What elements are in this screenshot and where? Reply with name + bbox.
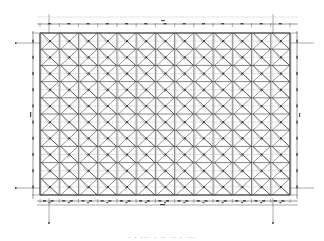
brace-diagonal <box>118 122 127 130</box>
brace-diagonal <box>42 179 51 190</box>
brace-diagonal <box>138 74 147 82</box>
brace-diagonal <box>89 65 98 73</box>
dimension-total-text <box>30 112 31 117</box>
brace-diagonal <box>272 163 281 174</box>
drawing-caption: · · ··· · ·· ·· · ··· <box>0 233 324 241</box>
grid-node <box>49 73 51 75</box>
brace-diagonal <box>118 179 127 190</box>
brace-diagonal <box>108 74 117 82</box>
structural-plan-drawing <box>0 0 324 241</box>
grid-node <box>68 89 70 91</box>
brace-diagonal <box>262 187 271 195</box>
brace-diagonal <box>215 114 224 125</box>
brace-diagonal <box>99 146 108 157</box>
brace-diagonal <box>69 138 78 146</box>
brace-diagonal <box>215 98 224 109</box>
brace-diagonal <box>195 171 204 179</box>
brace-diagonal <box>50 146 59 154</box>
brace-diagonal <box>118 187 127 195</box>
brace-diagonal <box>272 138 281 146</box>
grid-node <box>203 73 205 75</box>
brace-diagonal <box>69 98 78 106</box>
brace-diagonal <box>281 122 290 130</box>
brace-diagonal <box>185 171 194 179</box>
dimension-text <box>32 56 33 59</box>
brace-diagonal <box>242 74 251 82</box>
brace-diagonal <box>157 171 166 179</box>
dimension-text <box>32 104 33 107</box>
brace-diagonal <box>108 33 117 41</box>
brace-diagonal <box>127 33 136 41</box>
brace-diagonal <box>118 82 127 93</box>
brace-diagonal <box>69 90 78 98</box>
brace-diagonal <box>281 90 290 98</box>
brace-diagonal <box>185 98 194 106</box>
brace-diagonal <box>281 98 290 106</box>
brace-diagonal <box>69 179 78 187</box>
brace-diagonal <box>42 155 51 163</box>
grid-node <box>88 170 90 172</box>
brace-diagonal <box>50 187 59 195</box>
brace-diagonal <box>118 57 127 65</box>
brace-diagonal <box>242 146 251 154</box>
brace-diagonal <box>99 179 108 190</box>
brace-diagonal <box>166 171 175 179</box>
brace-diagonal <box>262 171 271 179</box>
brace-diagonal <box>215 163 224 174</box>
brace-diagonal <box>204 179 213 187</box>
brace-diagonal <box>50 114 59 122</box>
brace-diagonal <box>99 130 108 141</box>
brace-diagonal <box>89 41 98 49</box>
brace-diagonal <box>61 106 70 114</box>
brace-diagonal <box>185 33 194 41</box>
brace-diagonal <box>185 65 194 73</box>
brace-diagonal <box>195 138 204 146</box>
brace-diagonal <box>234 33 243 44</box>
dimension-text <box>32 88 33 91</box>
brace-diagonal <box>146 57 155 65</box>
grid-node <box>184 73 186 75</box>
brace-diagonal <box>127 74 136 82</box>
dimension-text <box>62 200 65 201</box>
grid-node <box>107 105 109 107</box>
brace-diagonal <box>215 130 224 141</box>
brace-diagonal <box>108 41 117 49</box>
brace-diagonal <box>157 122 166 130</box>
brace-diagonal <box>262 65 271 73</box>
brace-diagonal <box>253 179 262 190</box>
brace-diagonal <box>50 49 59 57</box>
grid-node <box>88 121 90 123</box>
dimension-text <box>139 200 142 201</box>
brace-diagonal <box>42 122 51 130</box>
brace-diagonal <box>272 122 281 130</box>
brace-diagonal <box>234 41 243 49</box>
brace-diagonal <box>166 138 175 146</box>
brace-diagonal <box>127 187 136 195</box>
brace-diagonal <box>242 179 251 187</box>
brace-diagonal <box>262 138 271 146</box>
grid-node <box>222 154 224 156</box>
dimension-text <box>32 169 33 172</box>
brace-diagonal <box>176 41 185 49</box>
brace-diagonal <box>262 155 271 163</box>
brace-diagonal <box>89 106 98 114</box>
grid-node <box>49 154 51 156</box>
dimension-text <box>120 200 123 201</box>
brace-diagonal <box>146 130 155 138</box>
grid-node <box>261 105 263 107</box>
dimension-text <box>101 200 104 201</box>
brace-diagonal <box>281 138 290 146</box>
brace-diagonal <box>50 65 59 73</box>
brace-diagonal <box>204 146 213 154</box>
grid-node <box>280 170 282 172</box>
brace-diagonal <box>89 33 98 41</box>
grid-node <box>145 89 147 91</box>
grid-node <box>107 56 109 58</box>
brace-diagonal <box>223 90 232 98</box>
brace-diagonal <box>176 138 185 146</box>
grid-node <box>184 89 186 91</box>
brace-diagonal <box>281 146 290 154</box>
brace-diagonal <box>185 74 194 82</box>
brace-diagonal <box>42 33 51 44</box>
brace-diagonal <box>127 82 136 90</box>
